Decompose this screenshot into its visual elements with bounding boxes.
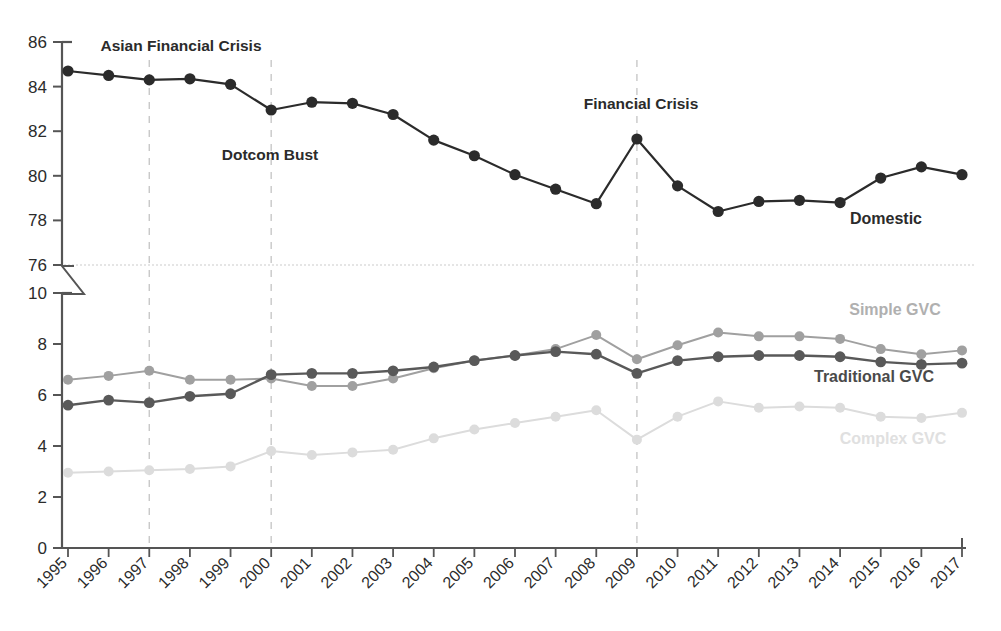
data-point [632,368,643,379]
data-point [266,369,277,380]
gvc-participation-chart: 7678808284860246810 19951996199719981999… [0,0,1001,631]
lower-y-label-0: 0 [38,539,47,558]
data-point [469,355,480,366]
data-point [144,397,155,408]
data-point [103,70,114,81]
data-point [306,368,317,379]
data-point [387,109,398,120]
upper-y-label-80: 80 [28,167,47,186]
upper-y-label-86: 86 [28,33,47,52]
data-point [713,328,723,338]
data-point [225,388,236,399]
data-point [673,340,683,350]
annotation-financial-crisis: Financial Crisis [584,95,699,112]
data-point [550,184,561,195]
data-point [510,418,520,428]
data-point [469,424,479,434]
data-point [672,355,683,366]
data-point [226,461,236,471]
data-point [428,362,439,373]
lower-y-label-2: 2 [38,488,47,507]
data-point [225,79,236,90]
data-point [63,468,73,478]
data-point [226,375,236,385]
lower-y-label-8: 8 [38,335,47,354]
lower-y-label-6: 6 [38,386,47,405]
upper-y-label-84: 84 [28,78,47,97]
data-point [754,403,764,413]
series-label-domestic: Domestic [850,210,922,227]
data-point [591,330,601,340]
data-point [876,412,886,422]
data-point [916,349,926,359]
data-point [103,395,114,406]
data-point [306,97,317,108]
data-point [875,356,886,367]
data-point [673,412,683,422]
data-point [956,169,967,180]
data-point [754,331,764,341]
data-point [184,73,195,84]
annotation-dotcom-bust: Dotcom Bust [222,146,318,163]
data-point [591,405,601,415]
data-point [916,413,926,423]
data-point [672,180,683,191]
data-point [510,350,521,361]
data-point [144,74,155,85]
data-point [104,467,114,477]
data-point [916,161,927,172]
data-point [62,65,73,76]
data-point [875,172,886,183]
data-point [104,371,114,381]
data-point [307,450,317,460]
series-label-complex-gvc: Complex GVC [840,430,947,447]
data-point [957,358,968,369]
data-point [794,331,804,341]
upper-y-label-82: 82 [28,122,47,141]
data-point [713,351,724,362]
data-point [591,198,602,209]
data-point [957,345,967,355]
data-point [835,334,845,344]
data-point [266,446,276,456]
data-point [794,195,805,206]
data-point [144,366,154,376]
data-point [388,365,399,376]
lower-y-label-4: 4 [38,437,47,456]
data-point [551,412,561,422]
series-label-traditional-gvc: Traditional GVC [814,368,934,385]
series-label-simple-gvc: Simple GVC [849,301,941,318]
lower-y-label-10: 10 [28,284,47,303]
data-point [834,197,845,208]
data-point [347,98,358,109]
data-point [876,344,886,354]
data-point [144,465,154,475]
chart-figure: 7678808284860246810 19951996199719981999… [0,0,1001,631]
data-point [347,368,358,379]
data-point [509,169,520,180]
data-point [469,150,480,161]
data-point [550,346,561,357]
data-point [185,391,196,402]
data-point [63,400,74,411]
data-point [713,206,724,217]
data-point [63,375,73,385]
data-point [429,433,439,443]
data-point [428,135,439,146]
upper-y-label-76: 76 [28,256,47,275]
data-point [957,408,967,418]
data-point [185,464,195,474]
data-point [632,435,642,445]
data-point [835,351,846,362]
data-point [713,396,723,406]
data-point [185,375,195,385]
data-point [794,350,805,361]
data-point [347,381,357,391]
data-point [753,350,764,361]
data-point [794,401,804,411]
data-point [347,447,357,457]
data-point [591,349,602,360]
data-point [307,381,317,391]
data-point [266,104,277,115]
data-point [835,403,845,413]
